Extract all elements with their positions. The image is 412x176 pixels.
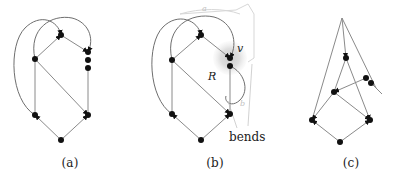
panel-c-drawing — [290, 0, 412, 150]
edge-top-rightupper — [61, 35, 88, 52]
edge-uppermid-leftmid — [334, 58, 346, 92]
graph-node-bottom — [58, 137, 64, 143]
graph-node-v — [227, 55, 233, 61]
graph-node-left-lower — [32, 112, 38, 118]
edge-bottom-leftlower — [312, 120, 340, 142]
panel-c-caption: (c) — [290, 156, 412, 170]
figure-panel-b: a b R v bends — [140, 0, 290, 176]
graph-node-left-upper — [32, 56, 38, 62]
graph-node-right-lower — [227, 111, 233, 117]
edge-apex-leftlower — [312, 18, 342, 120]
edge-apex-rightpair — [342, 18, 376, 88]
figure-root: (a) a — [0, 0, 412, 176]
graph-node-left-upper — [169, 57, 175, 63]
edge-bottom-rightlower — [201, 114, 230, 140]
edge-bottom-rightlower — [340, 120, 370, 142]
graph-node-right-lower — [85, 112, 91, 118]
edge-curve-left-outer — [152, 19, 201, 114]
panel-b-drawing: a b R v bends — [140, 0, 290, 150]
edge-bottom-rightlower — [61, 115, 88, 140]
graph-node-left-lower — [169, 111, 175, 117]
graph-node-upper-mid — [343, 55, 349, 61]
graph-node-left-mid — [331, 89, 337, 95]
faint-b-label: b — [240, 99, 245, 108]
panel-a-caption: (a) — [0, 156, 140, 170]
faint-a-label: a — [202, 4, 207, 13]
graph-node-right-upper-3 — [85, 65, 91, 71]
region-R-label: R — [207, 70, 216, 83]
edge-leftupper-top — [172, 35, 201, 60]
edge-bottom-leftlower — [35, 115, 61, 140]
figure-panel-a: (a) — [0, 0, 140, 176]
graph-node-right-lower — [367, 117, 373, 123]
edge-leftupper-rightlower — [35, 59, 88, 115]
graph-node-right-pair-1 — [363, 75, 369, 81]
edge-bottom-leftlower — [172, 114, 201, 140]
graph-node-left-lower — [309, 117, 315, 123]
panel-a-drawing — [0, 0, 140, 150]
edge-leftupper-top — [35, 35, 61, 59]
graph-node-right-upper-2 — [85, 57, 91, 63]
edge-leftmid-leftlower — [312, 92, 334, 120]
graph-node-bottom — [337, 139, 343, 145]
edge-rightpair-leftmid — [334, 78, 366, 92]
figure-panel-c: (c) — [290, 0, 412, 176]
graph-node-right-upper-1 — [85, 49, 91, 55]
vertex-v-label: v — [237, 42, 244, 55]
graph-node-top — [58, 32, 64, 38]
edge-curve-left-outer — [14, 20, 61, 115]
graph-node-right-pair-2 — [368, 80, 374, 86]
bends-label: bends — [229, 130, 265, 144]
panel-b-caption: (b) — [140, 156, 290, 170]
graph-node-v-under — [227, 63, 233, 69]
graph-node-top — [198, 32, 204, 38]
graph-node-bottom — [198, 137, 204, 143]
bends-leader-2 — [248, 64, 252, 126]
